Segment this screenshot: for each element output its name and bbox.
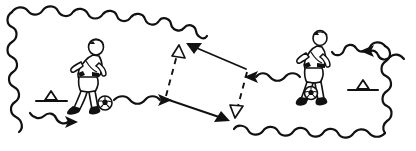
right-player-boot-front [316, 97, 328, 105]
run-dashed-lower-line [238, 72, 247, 106]
left-bottom-wavy-arrow [30, 113, 78, 128]
pass-solid-upper [186, 43, 246, 69]
left-bottom-wave [30, 113, 68, 123]
right-cone [348, 80, 378, 90]
right-cone-triangle [357, 80, 369, 89]
right-player-boot-back [296, 97, 308, 106]
right-player [296, 31, 330, 106]
left-dribble-path [114, 94, 172, 106]
left-player-leg-back [74, 91, 87, 109]
run-dashed-upper-line [166, 55, 177, 96]
top-right-wavy-arrow [360, 45, 404, 59]
soccer-drill-diagram: Soccer dribbling and passing drill diagr… [0, 0, 416, 151]
left-zone-outline [12, 6, 207, 38]
right-dribble-wave [256, 73, 300, 81]
left-dribble-wave [114, 96, 160, 104]
run-dashed-upper-arrowhead [172, 45, 185, 58]
left-zone-outline-left [8, 12, 22, 132]
left-cone-triangle [45, 91, 57, 100]
right-player-shorts [305, 68, 323, 83]
left-cone [36, 91, 67, 101]
right-dribble-path [244, 71, 300, 83]
left-zone [8, 6, 208, 132]
pass-solid-lower-line [166, 99, 222, 118]
pass-solid-upper-line [192, 46, 246, 69]
top-right-wave [371, 51, 404, 60]
right-zone-outline-bottom [234, 126, 385, 138]
pass-solid-lower [166, 99, 230, 122]
diagram-canvas [0, 0, 416, 151]
run-dashed-upper [166, 45, 185, 96]
run-dashed-lower-arrowhead [230, 105, 243, 118]
left-player-shorts [79, 77, 98, 92]
left-player [67, 39, 112, 115]
run-dashed-lower [230, 72, 247, 118]
